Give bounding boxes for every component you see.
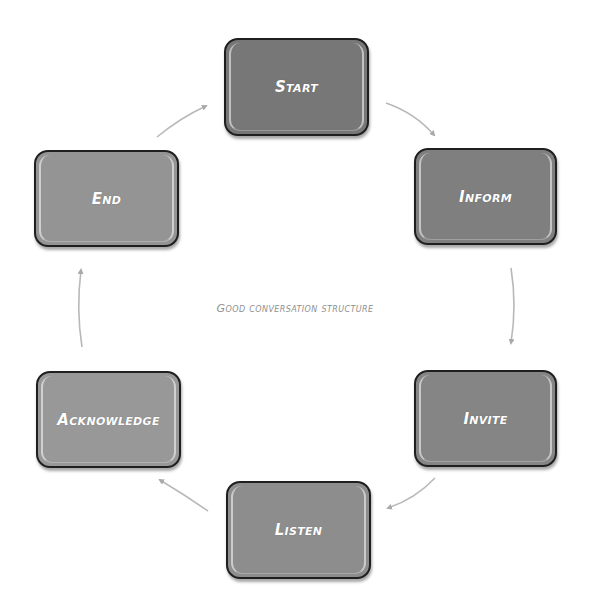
node-acknowledge: Acknowledge <box>36 371 181 468</box>
node-end: End <box>34 150 179 247</box>
arrow-start-to-inform <box>386 103 434 135</box>
diagram-title: Good conversation structure <box>180 302 410 315</box>
node-label: Acknowledge <box>57 411 159 429</box>
node-label: Invite <box>463 410 507 428</box>
node-invite: Invite <box>414 370 557 467</box>
arrow-acknowledge-to-end <box>79 270 82 347</box>
node-label: End <box>92 190 121 208</box>
arrow-listen-to-acknowledge <box>160 480 208 511</box>
arrow-end-to-start <box>157 106 206 137</box>
node-listen: Listen <box>226 481 371 579</box>
node-label: Start <box>275 78 318 96</box>
node-label: Listen <box>275 521 323 539</box>
node-start: Start <box>224 38 369 136</box>
arrow-inform-to-invite <box>511 268 514 343</box>
node-label: Inform <box>459 188 512 206</box>
node-inform: Inform <box>414 148 557 245</box>
arrow-invite-to-listen <box>388 478 435 508</box>
